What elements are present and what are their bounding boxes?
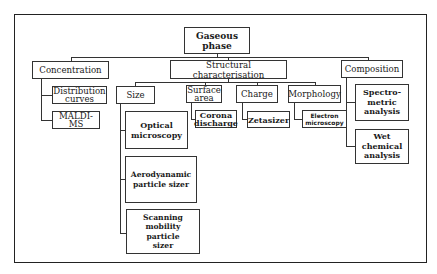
node-zetasizer: Zetasizer	[247, 111, 290, 128]
connector-morph-stem	[294, 103, 295, 119]
scanning-line2: mobility particle	[146, 222, 181, 241]
distribution-line2: curves	[65, 94, 94, 104]
wet-line3: analysis	[364, 150, 400, 160]
zetasizer-label: Zetasizer	[248, 115, 289, 125]
node-composition: Composition	[341, 60, 403, 78]
connector-charge-stem	[242, 103, 243, 119]
connector-surface-stem	[191, 103, 192, 119]
size-label: Size	[126, 90, 144, 100]
node-morphology: Morphology	[288, 85, 341, 103]
root-line1: Gaseous	[196, 31, 238, 41]
maldi-line2: MS	[69, 119, 84, 129]
surface-line2: area	[194, 93, 213, 103]
node-maldi-ms: MALDI-MS	[52, 111, 100, 129]
node-distribution-curves: Distributioncurves	[52, 86, 107, 104]
node-spectrometric-analysis: Spectro-metricanalysis	[355, 84, 409, 121]
connector-electron	[294, 119, 302, 120]
connector-level2-bar	[135, 82, 315, 83]
node-charge: Charge	[236, 85, 278, 103]
root-line2: phase	[202, 41, 231, 51]
node-size: Size	[116, 86, 155, 104]
scanning-line3: sizer	[153, 241, 173, 250]
node-surface-area: Surfacearea	[186, 85, 222, 103]
spectro-line2: metric	[367, 97, 396, 107]
connector-level1-bar	[71, 57, 368, 58]
node-optical-microscopy: Opticalmicroscopy	[125, 111, 188, 149]
composition-label: Composition	[345, 64, 400, 74]
wet-line2: chemical	[362, 141, 402, 151]
concentration-label: Concentration	[39, 65, 101, 75]
connector-size-stem	[120, 103, 121, 234]
spectro-line3: analysis	[364, 106, 400, 116]
node-gaseous-phase: Gaseousphase	[184, 27, 250, 54]
morphology-label: Morphology	[288, 89, 341, 99]
node-aerodynamic-particle-sizer: Aerodyanamicparticle sizer	[125, 156, 197, 203]
electron-line2: microscopy	[305, 119, 343, 126]
wet-line1: Wet	[373, 131, 390, 141]
connector-spectro	[346, 102, 355, 103]
electron-line1: Electron	[310, 112, 338, 119]
aero-line2: particle sizer	[133, 180, 189, 189]
node-corona-discharge: Coronadischarge	[195, 110, 237, 128]
node-structural-characterisation: Structural characterisation	[170, 60, 287, 79]
node-electron-microscopy: Electronmicroscopy	[302, 110, 347, 128]
connector-wet	[346, 146, 355, 147]
node-scanning-mobility-particle-sizer: Scanningmobility particlesizer	[126, 209, 200, 254]
structural-label: Structural characterisation	[172, 60, 285, 80]
optical-line2: microscopy	[131, 130, 182, 140]
corona-line2: discharge	[194, 118, 238, 128]
node-concentration: Concentration	[32, 61, 109, 79]
aero-line1: Aerodyanamic	[131, 170, 191, 179]
optical-line1: Optical	[140, 120, 172, 130]
connector-maldi	[41, 120, 52, 121]
node-wet-chemical-analysis: Wetchemicalanalysis	[355, 129, 409, 164]
spectro-line1: Spectro-	[363, 87, 401, 97]
charge-label: Charge	[241, 89, 273, 99]
scanning-line1: Scanning	[143, 213, 183, 222]
connector-concentration-stem	[41, 79, 42, 120]
connector-distribution	[41, 95, 52, 96]
